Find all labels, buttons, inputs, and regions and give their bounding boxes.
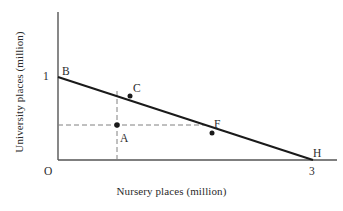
origin-label: O (44, 166, 52, 178)
point-label-f: F (214, 119, 220, 131)
y-tick-label-1: 1 (43, 71, 49, 83)
y-axis-label: University places (million) (13, 17, 25, 167)
point-label-c: C (133, 83, 141, 95)
ppf-chart-figure: University places (million) Nursery plac… (0, 0, 343, 211)
data-point-a (114, 122, 120, 128)
data-point-c (128, 94, 133, 99)
point-label-b: B (62, 66, 70, 78)
point-label-a: A (120, 133, 128, 145)
point-label-h: H (313, 148, 321, 160)
budget-line-bh (58, 77, 313, 160)
data-point-f (210, 131, 215, 136)
x-tick-label-3: 3 (309, 166, 315, 178)
chart-plot-area (0, 0, 343, 211)
x-axis-label: Nursery places (million) (0, 185, 343, 197)
